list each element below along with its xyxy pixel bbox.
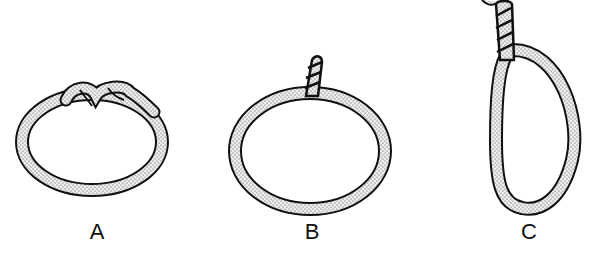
twisted-end-c: [482, 0, 514, 60]
label-b: B: [297, 221, 327, 243]
loop-b: [235, 56, 385, 209]
twisted-end-b: [305, 56, 322, 96]
loop-a: [22, 87, 162, 190]
label-a: A: [82, 221, 112, 243]
loop-c: [482, 0, 574, 209]
label-c: C: [514, 221, 544, 243]
